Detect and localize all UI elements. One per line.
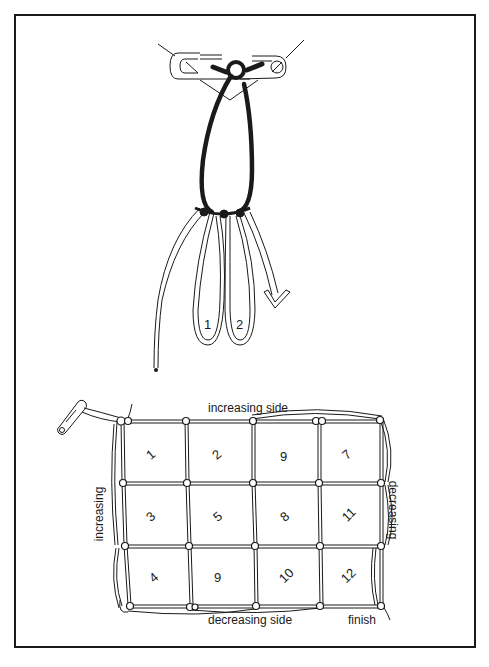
safety-pin-top bbox=[158, 40, 304, 100]
mesh-number: 9 bbox=[214, 571, 221, 584]
loop-number-2: 2 bbox=[236, 318, 243, 331]
cord-end-dot bbox=[154, 368, 158, 372]
netting-illustration bbox=[0, 0, 489, 667]
loop-knots bbox=[195, 208, 250, 218]
label-increasing-left: increasing bbox=[93, 487, 105, 542]
mesh-loops bbox=[154, 208, 290, 368]
starting-loop bbox=[202, 62, 262, 212]
label-increasing-side-top: increasing side bbox=[208, 402, 288, 414]
mesh-number: 6 bbox=[280, 450, 287, 463]
loop-number-1: 1 bbox=[204, 318, 211, 331]
label-decreasing-right: decreasing bbox=[387, 481, 399, 540]
safety-pin-net bbox=[57, 400, 121, 434]
label-finish: finish bbox=[348, 614, 376, 626]
label-decreasing-side-bottom: decreasing side bbox=[208, 614, 292, 626]
